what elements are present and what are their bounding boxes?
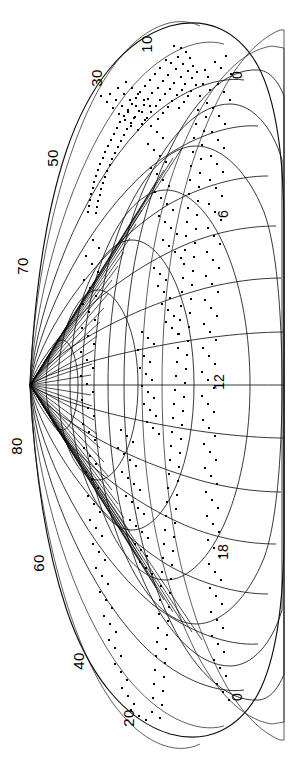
galaxy-point [152,697,154,699]
galaxy-point [116,127,118,129]
galaxy-point [168,473,170,475]
galaxy-point [187,340,189,342]
galaxy-point [117,146,119,148]
galaxy-point [86,383,88,385]
galaxy-point [193,256,195,258]
galaxy-point [179,319,181,321]
galaxy-point [210,475,212,477]
galaxy-point [120,140,122,142]
galaxy-point [141,385,143,387]
galaxy-point [185,235,187,237]
galaxy-point [201,144,203,146]
galaxy-point [203,443,205,445]
galaxy-point [87,211,89,213]
galaxy-point [176,94,178,96]
galaxy-point [97,487,99,489]
galaxy-point [203,323,205,325]
galaxy-point [180,438,182,440]
galaxy-point [123,134,125,136]
galaxy-point [203,130,205,132]
galaxy-point [205,116,207,118]
galaxy-point [137,129,139,131]
galaxy-point [169,88,171,90]
galaxy-point [220,67,222,69]
galaxy-point [95,527,97,529]
projection-boundary [30,23,284,737]
galaxy-point [213,235,215,237]
galaxy-point [170,445,172,447]
galaxy-point [110,139,112,141]
galaxy-point [222,691,224,693]
galaxy-point [215,595,217,597]
galaxy-point [143,104,145,106]
galaxy-point [173,45,175,47]
galaxy-point [108,639,110,641]
galaxy-point [160,197,162,199]
galaxy-point [111,607,113,609]
galaxy-point [114,152,116,154]
galaxy-point [222,627,224,629]
galaxy-point [118,113,120,115]
galaxy-point [147,537,149,539]
galaxy-point [97,169,99,171]
galaxy-point [168,185,170,187]
galaxy-point [170,62,172,64]
galaxy-point [151,379,153,381]
galaxy-point [112,107,114,109]
galaxy-point [107,583,109,585]
galaxy-point [82,303,84,305]
galaxy-point [129,519,131,521]
galaxy-point [204,69,206,71]
galaxy-point [212,107,214,109]
galaxy-point [144,119,146,121]
galaxy-point [117,87,119,89]
galaxy-point [188,326,190,328]
galaxy-point [225,675,227,677]
galaxy-point [86,359,88,361]
galaxy-point [95,295,97,297]
galaxy-point [91,263,93,265]
galaxy-point [133,483,135,485]
axis-tick-label-declination-40: 40 [70,652,87,670]
axis-tick-label-declination-60: 60 [30,554,47,572]
galaxy-point [149,361,151,363]
galaxy-point [209,89,211,91]
galaxy-point [202,419,204,421]
galaxy-point [100,95,102,97]
galaxy-point [202,83,204,85]
galaxy-point [164,529,166,531]
galaxy-point [93,503,95,505]
galaxy-point [207,403,209,405]
galaxy-point [97,271,99,273]
galaxy-point [151,711,153,713]
galaxy-point [208,203,210,205]
galaxy-point [88,311,90,313]
galaxy-point [159,273,161,275]
galaxy-point [183,101,185,103]
galaxy-point [215,187,217,189]
galaxy-point [182,63,184,65]
galaxy-point [157,87,159,89]
galaxy-point [151,92,153,94]
galaxy-point [130,122,132,124]
galaxy-point [209,587,211,589]
galaxy-point [178,107,180,109]
galaxy-point [206,102,208,104]
galaxy-point [121,687,123,689]
galaxy-point [106,101,108,103]
galaxy-point [223,147,225,149]
galaxy-point [167,74,169,76]
galaxy-point [173,536,175,538]
galaxy-point [170,227,172,229]
galaxy-point [80,351,82,353]
galaxy-point [119,121,121,123]
galaxy-point [92,367,94,369]
galaxy-point [159,155,161,157]
galaxy-point [180,47,182,49]
axis-tick-labels-group: 10305070806040200612180 [8,35,245,727]
galaxy-point [120,671,122,673]
galaxy-point [207,379,209,381]
galaxy-point [98,247,100,249]
galaxy-point [181,291,183,293]
galaxy-point [165,279,167,281]
